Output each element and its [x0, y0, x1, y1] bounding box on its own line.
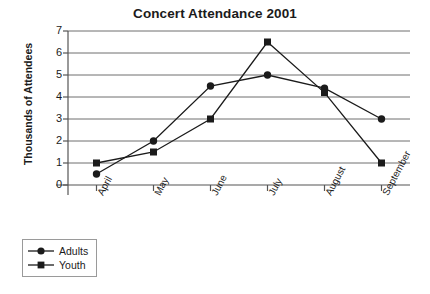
series-line-adults [97, 75, 382, 174]
legend-label-youth: Youth [59, 259, 85, 271]
series-line-youth [97, 42, 382, 163]
y-axis-label: Thousands of Attendees [22, 29, 34, 179]
data-point-youth-april [93, 160, 100, 167]
data-point-adults-july [264, 71, 271, 78]
chart-container: Concert Attendance 2001 Thousands of Att… [0, 0, 430, 294]
data-point-adults-may [150, 137, 157, 144]
data-point-youth-july [264, 39, 271, 46]
y-tick-4: 4 [40, 90, 62, 102]
legend-label-adults: Adults [59, 245, 88, 257]
data-point-youth-june [207, 116, 214, 123]
y-tick-6: 6 [40, 46, 62, 58]
legend-item-youth: Youth [28, 258, 88, 272]
y-tick-7: 7 [40, 24, 62, 36]
y-tick-2: 2 [40, 134, 62, 146]
data-point-adults-june [207, 82, 214, 89]
data-point-youth-august [321, 89, 328, 96]
y-tick-3: 3 [40, 112, 62, 124]
data-point-youth-september [378, 160, 385, 167]
chart-legend: Adults Youth [22, 239, 97, 277]
data-point-adults-september [378, 115, 385, 122]
legend-item-adults: Adults [28, 244, 88, 258]
data-point-adults-april [93, 170, 100, 177]
circle-marker-icon [28, 245, 54, 257]
data-point-youth-may [150, 149, 157, 156]
y-tick-5: 5 [40, 68, 62, 80]
y-tick-0: 0 [40, 178, 62, 190]
square-marker-icon [28, 259, 54, 271]
chart-title: Concert Attendance 2001 [0, 6, 430, 21]
y-tick-1: 1 [40, 156, 62, 168]
